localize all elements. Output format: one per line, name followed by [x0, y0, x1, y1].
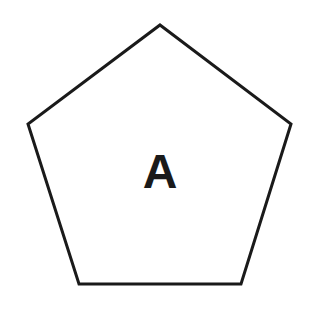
diagram-canvas: A — [0, 0, 320, 311]
pentagon-label: A — [143, 145, 178, 198]
